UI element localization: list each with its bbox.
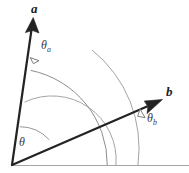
theta-a-arc-marker-icon <box>30 58 39 64</box>
theta-a-subscript: a <box>47 45 51 54</box>
theta-b-label: θb <box>147 112 157 127</box>
theta-b-subscript: b <box>153 118 157 127</box>
arc-theta-b <box>92 50 139 165</box>
vector-a-label: a <box>31 2 38 15</box>
vector-diagram-canvas <box>0 0 189 173</box>
arc-theta-a-inner <box>25 96 117 165</box>
vector-a-arrowhead <box>25 18 39 34</box>
theta-a-label: θa <box>41 39 51 54</box>
vector-b-label: b <box>166 85 173 98</box>
vector-b-shaft <box>12 107 147 166</box>
vector-angle-figure: a b θ θa θb <box>0 0 189 173</box>
theta-label: θ <box>19 136 25 148</box>
